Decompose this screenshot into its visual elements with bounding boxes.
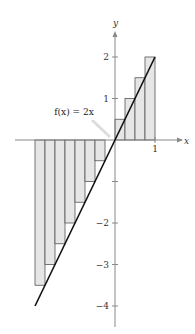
y-tick-label: −3 — [96, 260, 110, 270]
riemann-rectangle — [35, 140, 45, 285]
x-axis-label: x — [184, 136, 189, 146]
riemann-rectangle — [95, 140, 105, 161]
x-tick-label: 1 — [152, 144, 158, 154]
riemann-sum-chart: 21−2−3−41 y x — [0, 0, 195, 334]
y-tick-label: 1 — [103, 94, 109, 104]
riemann-rectangle — [65, 140, 75, 223]
riemann-rectangle — [145, 57, 155, 140]
x-axis-arrow-icon — [177, 138, 183, 143]
y-tick-label: −4 — [96, 301, 110, 311]
function-label: f(x) = 2x — [52, 103, 96, 120]
riemann-rectangle — [75, 140, 85, 202]
riemann-rectangles — [35, 57, 155, 285]
y-axis-arrow-icon — [113, 31, 118, 37]
riemann-rectangle — [55, 140, 65, 244]
riemann-rectangle — [45, 140, 55, 265]
y-axis-label: y — [112, 18, 119, 28]
riemann-rectangle — [85, 140, 95, 182]
y-tick-label: −2 — [96, 218, 109, 228]
callout-leader — [92, 120, 110, 137]
y-tick-label: 2 — [103, 52, 109, 62]
riemann-rectangle — [125, 99, 135, 141]
